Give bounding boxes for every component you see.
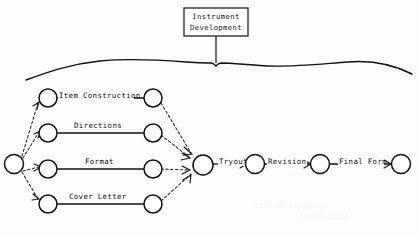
node-start — [5, 155, 24, 174]
node-row1-left — [39, 89, 57, 107]
node-after-revision — [311, 155, 330, 174]
edge-label-final-form: Final Form — [339, 157, 387, 166]
page-break-brace — [26, 59, 412, 80]
node-row4-right — [144, 195, 162, 213]
node-row2-right — [144, 124, 162, 142]
dashed-edge-start-to-row1 — [22, 103, 38, 156]
node-merge — [193, 155, 213, 175]
arrowhead-row4-merge — [183, 175, 191, 183]
edge-label-tryout: Tryout — [219, 157, 248, 166]
edge-label-directions: Directions — [74, 121, 122, 130]
node-row1-right — [144, 89, 162, 107]
callout-line-1: Instrument — [192, 12, 239, 21]
node-row3-left — [39, 160, 57, 178]
node-row2-left — [39, 124, 57, 142]
dashed-edge-start-to-row4 — [22, 172, 38, 199]
dashed-edge-row2-to-merge — [161, 135, 189, 157]
diagram-svg: Instrument Development Item Construction — [0, 0, 419, 236]
node-row3-right — [144, 160, 162, 178]
callout-line-2: Development — [190, 23, 242, 32]
node-final — [392, 155, 411, 174]
dashed-edge-row1-to-merge — [161, 103, 191, 153]
edge-label-cover-letter: Cover Letter — [69, 192, 127, 201]
dashed-edge-row3-to-merge — [161, 169, 189, 170]
edge-label-revision: Revision — [268, 157, 306, 166]
edge-label-format: Format — [85, 157, 114, 166]
node-after-tryout — [246, 155, 265, 174]
edge-label-item-construction: Item Construction — [59, 91, 141, 100]
node-row4-left — [39, 195, 57, 213]
figure-canvas: reverse side text faint offset Instrumen… — [0, 0, 419, 236]
